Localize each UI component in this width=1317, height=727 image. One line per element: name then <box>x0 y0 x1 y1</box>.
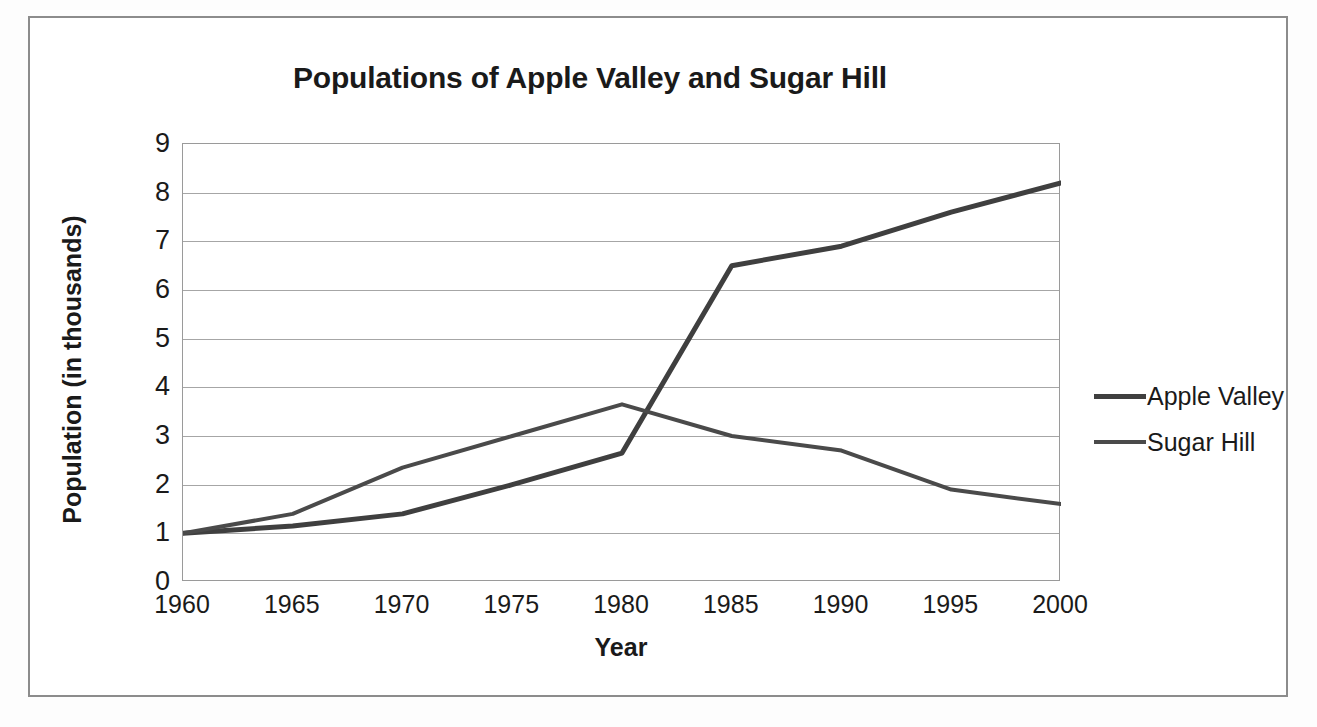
x-axis-title: Year <box>182 633 1060 662</box>
y-axis-tick-labels: 0123456789 <box>126 143 170 581</box>
x-tick-label: 1970 <box>374 590 430 619</box>
legend-label: Apple Valley <box>1147 382 1284 411</box>
y-tick-label: 5 <box>155 322 170 353</box>
page-canvas: Populations of Apple Valley and Sugar Hi… <box>0 0 1317 727</box>
legend-entry: Sugar Hill <box>1094 419 1309 465</box>
chart-title: Populations of Apple Valley and Sugar Hi… <box>150 61 1030 95</box>
x-tick-label: 1980 <box>593 590 649 619</box>
y-tick-label: 4 <box>155 371 170 402</box>
x-tick-label: 1990 <box>813 590 869 619</box>
y-tick-label: 8 <box>155 176 170 207</box>
x-tick-label: 1975 <box>483 590 539 619</box>
x-tick-label: 1965 <box>264 590 320 619</box>
x-tick-label: 1995 <box>922 590 978 619</box>
x-axis-tick-labels: 196019651970197519801985199019952000 <box>182 590 1060 630</box>
y-tick-label: 3 <box>155 420 170 451</box>
legend-line-swatch <box>1094 440 1146 444</box>
legend-label: Sugar Hill <box>1147 428 1255 457</box>
chart-legend: Apple ValleySugar Hill <box>1094 373 1309 465</box>
legend-entry: Apple Valley <box>1094 373 1309 419</box>
y-tick-label: 9 <box>155 128 170 159</box>
data-lines <box>183 144 1061 582</box>
document-frame: Populations of Apple Valley and Sugar Hi… <box>28 16 1288 697</box>
x-tick-label: 1985 <box>703 590 759 619</box>
plot-area <box>182 143 1060 581</box>
y-tick-label: 6 <box>155 274 170 305</box>
x-tick-label: 1960 <box>154 590 210 619</box>
series-line <box>183 404 1061 533</box>
y-tick-label: 1 <box>155 517 170 548</box>
y-axis-title: Population (in thousands) <box>58 200 87 540</box>
y-tick-label: 2 <box>155 468 170 499</box>
x-tick-label: 2000 <box>1032 590 1088 619</box>
y-tick-label: 7 <box>155 225 170 256</box>
legend-line-swatch <box>1094 394 1146 399</box>
